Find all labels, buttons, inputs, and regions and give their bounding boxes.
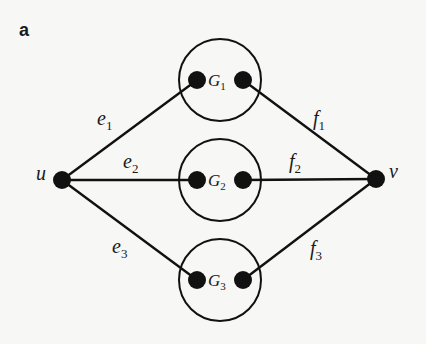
vertex-g2-left (188, 171, 206, 189)
vertex-g1-left (188, 71, 206, 89)
label-e3: e3 (112, 235, 127, 261)
label-v: v (389, 160, 398, 182)
label-f1: f1 (313, 107, 325, 133)
label-f2: f2 (289, 150, 301, 176)
edge-f3 (243, 179, 376, 280)
vertex-u (53, 171, 71, 189)
vertex-g2-right (234, 171, 252, 189)
label-g2: G2 (208, 171, 226, 192)
edge-e3 (62, 180, 197, 280)
label-f3: f3 (310, 237, 322, 263)
label-g3: G3 (208, 271, 226, 292)
graph-figure: a u v (0, 0, 426, 344)
graph-diagram: u v G1 G2 G3 e1 e2 e3 f1 f2 f3 (0, 0, 426, 344)
vertex-g3-right (234, 271, 252, 289)
label-e1: e1 (97, 107, 112, 133)
edge-f2 (243, 179, 376, 180)
label-e2: e2 (123, 150, 138, 176)
vertex-g3-left (188, 271, 206, 289)
vertex-v (367, 170, 385, 188)
label-g1: G1 (208, 71, 226, 92)
vertex-g1-right (234, 71, 252, 89)
edge-f1 (243, 80, 376, 179)
label-u: u (36, 162, 46, 184)
